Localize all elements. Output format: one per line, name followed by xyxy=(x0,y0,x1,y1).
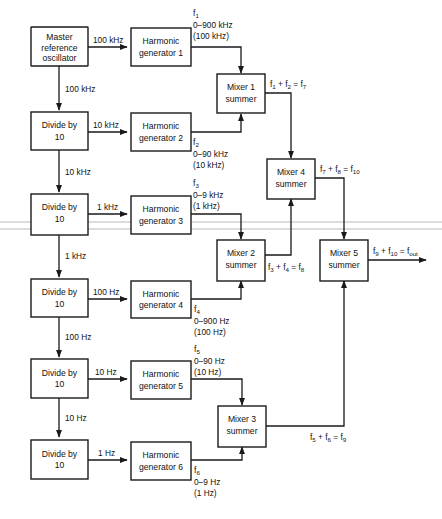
wire-label-div2-to-div3: 1 kHz xyxy=(65,251,86,261)
block-label-line2: 10 xyxy=(55,214,65,224)
freq-symbol-f3: f3 xyxy=(193,178,199,189)
block-label-line2: reference xyxy=(41,43,78,53)
block-harmonic-generator-5[interactable]: Harmonic generator 5 xyxy=(131,361,191,399)
wire-gen2-to-mixer1 xyxy=(191,114,241,132)
block-harmonic-generator-3[interactable]: Harmonic generator 3 xyxy=(131,196,191,234)
freq-range-f3: 0–9 kHz xyxy=(193,190,223,200)
block-label-line1: Divide by xyxy=(42,287,78,297)
block-harmonic-generator-6[interactable]: Harmonic generator 6 xyxy=(131,442,191,480)
frequency-synthesizer-diagram: Master reference oscillator Divide by 10… xyxy=(0,0,442,519)
freq-annotation-f4: f4 0–900 Hz (100 Hz) xyxy=(194,304,230,337)
wire-mixer2-to-mixer4 xyxy=(265,199,291,255)
block-label-line1: Master xyxy=(46,32,72,42)
block-label-line2: summer xyxy=(328,260,359,270)
wire-label-div5-to-gen6: 1 Hz xyxy=(98,448,115,458)
block-label-line1: Divide by xyxy=(42,449,78,459)
freq-annotation-f6: f6 0–9 Hz (1 Hz) xyxy=(194,465,220,498)
wire-label-div1-to-div2: 10 kHz xyxy=(65,167,91,177)
freq-symbol-f4: f4 xyxy=(194,304,200,315)
freq-step-f1: (100 kHz) xyxy=(193,31,229,41)
block-harmonic-generator-4[interactable]: Harmonic generator 4 xyxy=(131,281,191,318)
block-label-line2: generator 3 xyxy=(139,216,183,226)
block-label-line2: summer xyxy=(275,179,306,189)
block-label-line2: generator 4 xyxy=(139,300,183,310)
block-label-line1: Harmonic xyxy=(143,369,180,379)
block-harmonic-generator-1[interactable]: Harmonic generator 1 xyxy=(131,28,191,66)
wire-label-div3-to-div4: 100 Hz xyxy=(65,332,91,342)
mixer-4-output-equation: f7 + f8 = f10 xyxy=(320,164,360,175)
block-label-line1: Mixer 4 xyxy=(277,167,305,177)
block-label-line2: 10 xyxy=(55,132,65,142)
block-label-line1: Harmonic xyxy=(143,204,180,214)
block-mixer-3[interactable]: Mixer 3 summer xyxy=(218,406,266,447)
block-label-line1: Harmonic xyxy=(143,289,180,299)
freq-range-f6: 0–9 Hz xyxy=(194,477,220,487)
block-label-line2: generator 2 xyxy=(139,133,183,143)
block-divider-3[interactable]: Divide by 10 xyxy=(31,279,88,317)
wire-label-div4-to-gen5: 10 Hz xyxy=(95,367,117,377)
block-label-line1: Harmonic xyxy=(143,36,180,46)
wire-gen3-to-mixer2 xyxy=(191,214,241,239)
block-harmonic-generator-2[interactable]: Harmonic generator 2 xyxy=(131,113,191,151)
block-label-line1: Mixer 1 xyxy=(227,82,255,92)
mixer-5-output-equation: f9 + f10 = fout xyxy=(373,246,418,257)
wire-label-div1-to-gen2: 10 kHz xyxy=(93,120,119,130)
block-label-line2: summer xyxy=(226,426,257,436)
freq-step-f2: (10 kHz) xyxy=(193,160,225,170)
wire-gen5-to-mixer3 xyxy=(191,379,242,405)
freq-step-f3: (1 kHz) xyxy=(193,201,220,211)
block-label-line2: generator 6 xyxy=(139,462,183,472)
wire-label-osc-to-gen1: 100 kHz xyxy=(93,35,123,45)
wire-mixer1-to-mixer4 xyxy=(265,93,291,158)
block-mixer-5[interactable]: Mixer 5 summer xyxy=(320,240,368,281)
block-mixer-4[interactable]: Mixer 4 summer xyxy=(267,159,315,199)
mixer-2-output-equation: f3 + f4 = f8 xyxy=(268,262,305,273)
freq-range-f4: 0–900 Hz xyxy=(194,316,230,326)
wire-mixer3-to-mixer5 xyxy=(266,281,344,426)
freq-annotation-f3: f3 0–9 kHz (1 kHz) xyxy=(193,178,223,211)
block-label-line1: Divide by xyxy=(42,202,78,212)
freq-annotation-f5: f5 0–90 Hz (10 Hz) xyxy=(194,344,225,377)
wire-gen1-to-mixer1 xyxy=(191,47,241,73)
wire-gen6-to-mixer3 xyxy=(191,447,242,460)
block-label-line1: Harmonic xyxy=(143,121,180,131)
freq-step-f5: (10 Hz) xyxy=(194,367,221,377)
block-label-line2: summer xyxy=(225,94,256,104)
wire-mixer4-to-mixer5 xyxy=(315,178,344,239)
block-label-line1: Mixer 2 xyxy=(227,248,255,258)
freq-step-f4: (100 Hz) xyxy=(194,327,226,337)
block-label-line2: 10 xyxy=(55,460,65,470)
block-divider-4[interactable]: Divide by 10 xyxy=(31,359,88,398)
block-label-line2: summer xyxy=(225,260,256,270)
block-label-line2: 10 xyxy=(55,379,65,389)
freq-step-f6: (1 Hz) xyxy=(194,488,217,498)
block-diagram-canvas: Master reference oscillator Divide by 10… xyxy=(0,0,442,519)
block-label-line1: Divide by xyxy=(42,368,78,378)
freq-range-f5: 0–90 Hz xyxy=(194,356,225,366)
block-master-reference-oscillator[interactable]: Master reference oscillator xyxy=(31,27,88,66)
block-label-line3: oscillator xyxy=(43,53,77,63)
block-label-line1: Harmonic xyxy=(143,450,180,460)
block-mixer-2[interactable]: Mixer 2 summer xyxy=(217,240,265,281)
freq-symbol-f6: f6 xyxy=(194,465,200,476)
wire-label-div3-to-gen4: 100 Hz xyxy=(93,287,119,297)
wire-label-div4-to-div5: 10 Hz xyxy=(65,413,87,423)
freq-range-f1: 0–900 kHz xyxy=(193,20,233,30)
mixer-1-output-equation: f1 + f2 = f7 xyxy=(270,79,307,90)
block-label-line1: Mixer 5 xyxy=(330,248,358,258)
block-mixer-1[interactable]: Mixer 1 summer xyxy=(217,74,265,113)
freq-symbol-f1: f1 xyxy=(193,8,199,19)
block-divider-5[interactable]: Divide by 10 xyxy=(31,440,88,479)
freq-annotation-f2: f2 0–90 kHz (10 kHz) xyxy=(193,137,228,170)
block-label-line2: generator 1 xyxy=(139,48,183,58)
freq-range-f2: 0–90 kHz xyxy=(193,149,228,159)
freq-annotation-f1: f1 0–900 kHz (100 kHz) xyxy=(193,8,233,41)
mixer-3-output-equation: f5 + f6 = f9 xyxy=(310,432,347,443)
block-divider-1[interactable]: Divide by 10 xyxy=(31,112,88,150)
freq-symbol-f2: f2 xyxy=(193,137,199,148)
wire-label-osc-to-div1: 100 kHz xyxy=(65,84,95,94)
block-label-line1: Mixer 3 xyxy=(228,414,256,424)
wire-label-div2-to-gen3: 1 kHz xyxy=(97,202,118,212)
block-label-line1: Divide by xyxy=(42,120,78,130)
block-divider-2[interactable]: Divide by 10 xyxy=(31,194,88,235)
